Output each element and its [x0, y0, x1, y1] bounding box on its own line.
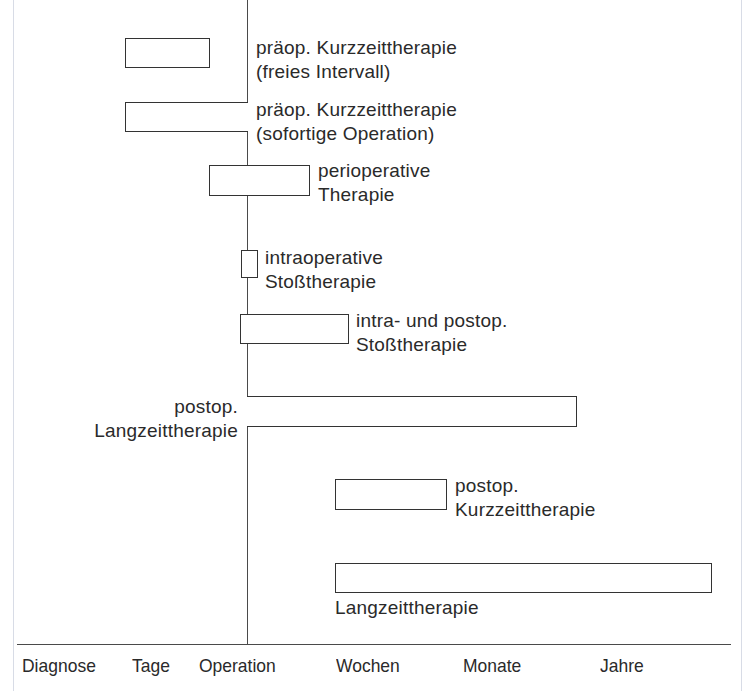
label-line1: postop.	[40, 395, 238, 419]
label-line1: postop.	[455, 474, 596, 498]
bar-praeop-kurz-frei	[125, 38, 210, 68]
label-line2: Stoßtherapie	[356, 333, 507, 357]
label-line2: (freies Intervall)	[256, 60, 457, 84]
axis-label-tage: Tage	[132, 655, 170, 677]
label-line1: intra- und postop.	[356, 309, 507, 333]
frame-border-right	[741, 0, 742, 691]
time-axis-line	[17, 644, 731, 645]
label-intraop-stoss: intraoperative Stoßtherapie	[265, 246, 383, 294]
label-postop-lang: postop. Langzeittherapie	[40, 395, 238, 443]
label-praeop-kurz-frei: präop. Kurzzeittherapie (freies Interval…	[256, 36, 457, 84]
bar-intra-postop-stoss	[240, 314, 349, 344]
label-line1: Langzeittherapie	[335, 596, 479, 620]
label-line1: präop. Kurzzeittherapie	[256, 36, 457, 60]
label-line1: perioperative	[318, 159, 430, 183]
axis-label-wochen: Wochen	[336, 655, 400, 677]
axis-label-diagnose: Diagnose	[22, 655, 96, 677]
label-line2: Therapie	[318, 183, 430, 207]
label-postop-kurz: postop. Kurzzeittherapie	[455, 474, 596, 522]
label-line2: Stoßtherapie	[265, 270, 383, 294]
bar-langzeit	[335, 563, 712, 593]
label-intra-postop-stoss: intra- und postop. Stoßtherapie	[356, 309, 507, 357]
label-praeop-kurz-sofort: präop. Kurzzeittherapie (sofortige Opera…	[256, 98, 457, 146]
axis-label-jahre: Jahre	[600, 655, 644, 677]
bar-postop-lang	[247, 396, 577, 427]
axis-label-monate: Monate	[463, 655, 521, 677]
label-line2: (sofortige Operation)	[256, 122, 457, 146]
bar-postop-kurz	[335, 479, 447, 510]
bar-praeop-kurz-sofort	[125, 102, 248, 132]
axis-label-operation: Operation	[199, 655, 276, 677]
frame-border-left	[13, 0, 14, 691]
label-langzeit: Langzeittherapie	[335, 596, 479, 620]
label-perioperativ: perioperative Therapie	[318, 159, 430, 207]
bar-perioperativ	[209, 165, 310, 196]
label-line2: Langzeittherapie	[40, 419, 238, 443]
label-line1: intraoperative	[265, 246, 383, 270]
label-line1: präop. Kurzzeittherapie	[256, 98, 457, 122]
label-line2: Kurzzeittherapie	[455, 498, 596, 522]
bar-intraop-stoss	[241, 250, 258, 278]
